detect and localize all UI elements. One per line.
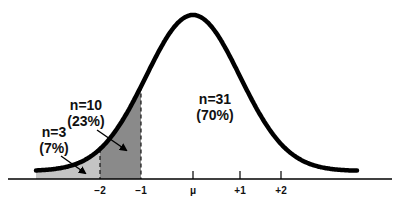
label-pct7: (7%): [39, 140, 69, 156]
label-n3: n=3: [42, 124, 67, 140]
tick-label: +2: [275, 185, 287, 196]
label-n10: n=10: [70, 97, 103, 113]
normal-curve-diagram: −2−1μ+1+2 n=10 (23%) n=3 (7%) n=31 (70%): [0, 0, 394, 203]
bell-curve: [36, 15, 357, 171]
tick-label: +1: [234, 185, 246, 196]
tick-label: μ: [190, 185, 196, 196]
label-n31: n=31: [199, 91, 232, 107]
label-pct23: (23%): [67, 113, 104, 129]
label-pct70: (70%): [196, 107, 233, 123]
tick-label: −1: [135, 185, 147, 196]
tick-label: −2: [94, 185, 106, 196]
